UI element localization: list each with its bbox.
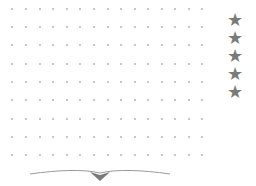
grid-dot[interactable]	[52, 44, 54, 46]
grid-dot[interactable]	[66, 118, 68, 120]
grid-dot[interactable]	[25, 63, 27, 65]
grid-dot[interactable]	[201, 8, 203, 10]
grid-dot[interactable]	[93, 63, 95, 65]
grid-dot[interactable]	[79, 26, 81, 28]
grid-dot[interactable]	[174, 63, 176, 65]
grid-dot[interactable]	[201, 136, 203, 138]
grid-dot[interactable]	[66, 63, 68, 65]
grid-dot[interactable]	[188, 26, 190, 28]
grid-dot[interactable]	[25, 118, 27, 120]
grid-dot[interactable]	[147, 26, 149, 28]
grid-dot[interactable]	[120, 81, 122, 83]
grid-dot[interactable]	[79, 63, 81, 65]
grid-dot[interactable]	[11, 44, 13, 46]
grid-dot[interactable]	[11, 99, 13, 101]
grid-dot[interactable]	[39, 136, 41, 138]
grid-dot[interactable]	[107, 99, 109, 101]
grid-dot[interactable]	[174, 118, 176, 120]
grid-dot[interactable]	[174, 99, 176, 101]
grid-dot[interactable]	[147, 154, 149, 156]
grid-dot[interactable]	[11, 81, 13, 83]
grid-dot[interactable]	[147, 99, 149, 101]
grid-dot[interactable]	[39, 81, 41, 83]
grid-dot[interactable]	[188, 81, 190, 83]
grid-dot[interactable]	[79, 8, 81, 10]
grid-dot[interactable]	[161, 81, 163, 83]
grid-dot[interactable]	[11, 136, 13, 138]
grid-dot[interactable]	[25, 26, 27, 28]
grid-dot[interactable]	[11, 118, 13, 120]
grid-dot[interactable]	[188, 63, 190, 65]
grid-dot[interactable]	[66, 136, 68, 138]
grid-dot[interactable]	[174, 44, 176, 46]
grid-dot[interactable]	[11, 26, 13, 28]
grid-dot[interactable]	[161, 26, 163, 28]
grid-dot[interactable]	[93, 154, 95, 156]
grid-dot[interactable]	[201, 99, 203, 101]
grid-dot[interactable]	[134, 26, 136, 28]
grid-dot[interactable]	[120, 26, 122, 28]
grid-dot[interactable]	[11, 154, 13, 156]
grid-dot[interactable]	[147, 44, 149, 46]
grid-dot[interactable]	[201, 118, 203, 120]
grid-dot[interactable]	[161, 154, 163, 156]
grid-dot[interactable]	[201, 26, 203, 28]
grid-dot[interactable]	[188, 8, 190, 10]
grid-dot[interactable]	[147, 8, 149, 10]
grid-dot[interactable]	[52, 26, 54, 28]
grid-dot[interactable]	[134, 154, 136, 156]
grid-dot[interactable]	[25, 99, 27, 101]
grid-dot[interactable]	[93, 81, 95, 83]
grid-dot[interactable]	[79, 118, 81, 120]
grid-dot[interactable]	[11, 8, 13, 10]
grid-dot[interactable]	[52, 63, 54, 65]
grid-dot[interactable]	[66, 44, 68, 46]
grid-dot[interactable]	[107, 8, 109, 10]
grid-dot[interactable]	[52, 136, 54, 138]
grid-dot[interactable]	[147, 136, 149, 138]
grid-dot[interactable]	[120, 8, 122, 10]
grid-dot[interactable]	[161, 8, 163, 10]
grid-dot[interactable]	[188, 118, 190, 120]
grid-dot[interactable]	[120, 44, 122, 46]
grid-dot[interactable]	[93, 118, 95, 120]
grid-dot[interactable]	[107, 154, 109, 156]
grid-dot[interactable]	[66, 154, 68, 156]
grid-dot[interactable]	[107, 63, 109, 65]
grid-dot[interactable]	[52, 154, 54, 156]
grid-dot[interactable]	[93, 136, 95, 138]
grid-dot[interactable]	[147, 118, 149, 120]
grid-dot[interactable]	[107, 118, 109, 120]
grid-dot[interactable]	[174, 8, 176, 10]
grid-dot[interactable]	[25, 44, 27, 46]
grid-dot[interactable]	[134, 99, 136, 101]
grid-dot[interactable]	[201, 81, 203, 83]
grid-dot[interactable]	[201, 154, 203, 156]
grid-dot[interactable]	[134, 63, 136, 65]
grid-dot[interactable]	[174, 81, 176, 83]
grid-dot[interactable]	[188, 136, 190, 138]
grid-dot[interactable]	[25, 81, 27, 83]
grid-dot[interactable]	[66, 26, 68, 28]
grid-dot[interactable]	[174, 26, 176, 28]
grid-dot[interactable]	[161, 136, 163, 138]
grid-dot[interactable]	[39, 118, 41, 120]
grid-dot[interactable]	[11, 63, 13, 65]
grid-dot[interactable]	[25, 8, 27, 10]
grid-dot[interactable]	[134, 44, 136, 46]
grid-dot[interactable]	[39, 63, 41, 65]
grid-dot[interactable]	[25, 136, 27, 138]
grid-dot[interactable]	[120, 136, 122, 138]
grid-dot[interactable]	[52, 81, 54, 83]
grid-dot[interactable]	[201, 44, 203, 46]
grid-dot[interactable]	[52, 8, 54, 10]
grid-dot[interactable]	[161, 63, 163, 65]
grid-dot[interactable]	[52, 118, 54, 120]
dot-grid-board[interactable]	[0, 0, 215, 165]
grid-dot[interactable]	[66, 99, 68, 101]
grid-dot[interactable]	[39, 99, 41, 101]
grid-dot[interactable]	[120, 63, 122, 65]
grid-dot[interactable]	[174, 154, 176, 156]
grid-dot[interactable]	[147, 63, 149, 65]
grid-dot[interactable]	[174, 136, 176, 138]
